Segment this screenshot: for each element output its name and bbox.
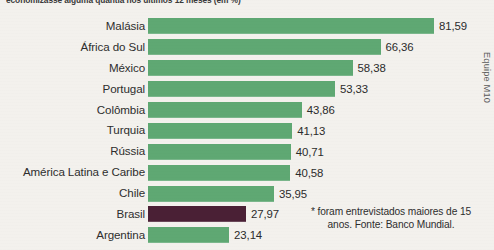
bar [148, 186, 274, 202]
bar-value-label: 40,71 [291, 144, 324, 160]
bar-row-label: América Latina e Caribe [23, 162, 145, 183]
bar-row-label: Brasil [117, 204, 145, 225]
bar-row: América Latina e Caribe40,58 [0, 162, 494, 183]
bar-row-label: Argentina [96, 225, 145, 246]
bar-row: Colômbia43,86 [0, 100, 494, 121]
bar-track: 53,33 [148, 81, 494, 97]
bar-row: Rússia40,71 [0, 141, 494, 162]
bar-highlight [148, 206, 246, 222]
bar-track: 58,38 [148, 60, 494, 76]
chart-title: economizasse alguma quantia nos últimos … [6, 0, 336, 5]
bar-value-label: 27,97 [246, 206, 279, 222]
footnote: * foram entrevistados maiores de 15 anos… [300, 205, 482, 231]
bar-track: 81,59 [148, 18, 494, 34]
bar-row-label: Chile [119, 183, 145, 204]
bar [148, 102, 302, 118]
bar-track: 43,86 [148, 102, 494, 118]
bar [148, 144, 291, 160]
bar-row: Chile35,95 [0, 183, 494, 204]
bar-value-label: 81,59 [434, 18, 467, 34]
bar-row-label: México [109, 58, 145, 79]
credit-label: Equipe M10 [482, 52, 492, 103]
bar [148, 39, 381, 55]
bar-track: 41,13 [148, 123, 494, 139]
bar-row: África do Sul66,36 [0, 37, 494, 58]
bar-row: Portugal53,33 [0, 79, 494, 100]
bar [148, 165, 290, 181]
bar [148, 227, 229, 243]
bar-track: 66,36 [148, 39, 494, 55]
chart-canvas: economizasse alguma quantia nos últimos … [0, 0, 494, 250]
bar-track: 35,95 [148, 186, 494, 202]
bar-row: Turquia41,13 [0, 120, 494, 141]
bar-row-label: Rússia [110, 141, 145, 162]
bar-value-label: 35,95 [274, 186, 307, 202]
bar-track: 40,58 [148, 165, 494, 181]
bar-row-label: Colômbia [97, 100, 145, 121]
bar-value-label: 40,58 [290, 165, 323, 181]
bar-track: 40,71 [148, 144, 494, 160]
bar [148, 60, 353, 76]
bar-value-label: 41,13 [292, 123, 325, 139]
bar-row: México58,38 [0, 58, 494, 79]
bar [148, 18, 434, 34]
bar-value-label: 53,33 [335, 81, 368, 97]
bar [148, 123, 292, 139]
bar-row-label: África do Sul [81, 37, 145, 58]
bar-value-label: 66,36 [381, 39, 414, 55]
bar-row: Malásia81,59 [0, 16, 494, 37]
bar-value-label: 58,38 [353, 60, 386, 76]
bar-row-label: Portugal [103, 79, 145, 100]
bar [148, 81, 335, 97]
bar-row-label: Turquia [107, 120, 145, 141]
bar-row-label: Malásia [106, 16, 145, 37]
bar-value-label: 43,86 [302, 102, 335, 118]
bar-value-label: 23,14 [229, 227, 262, 243]
